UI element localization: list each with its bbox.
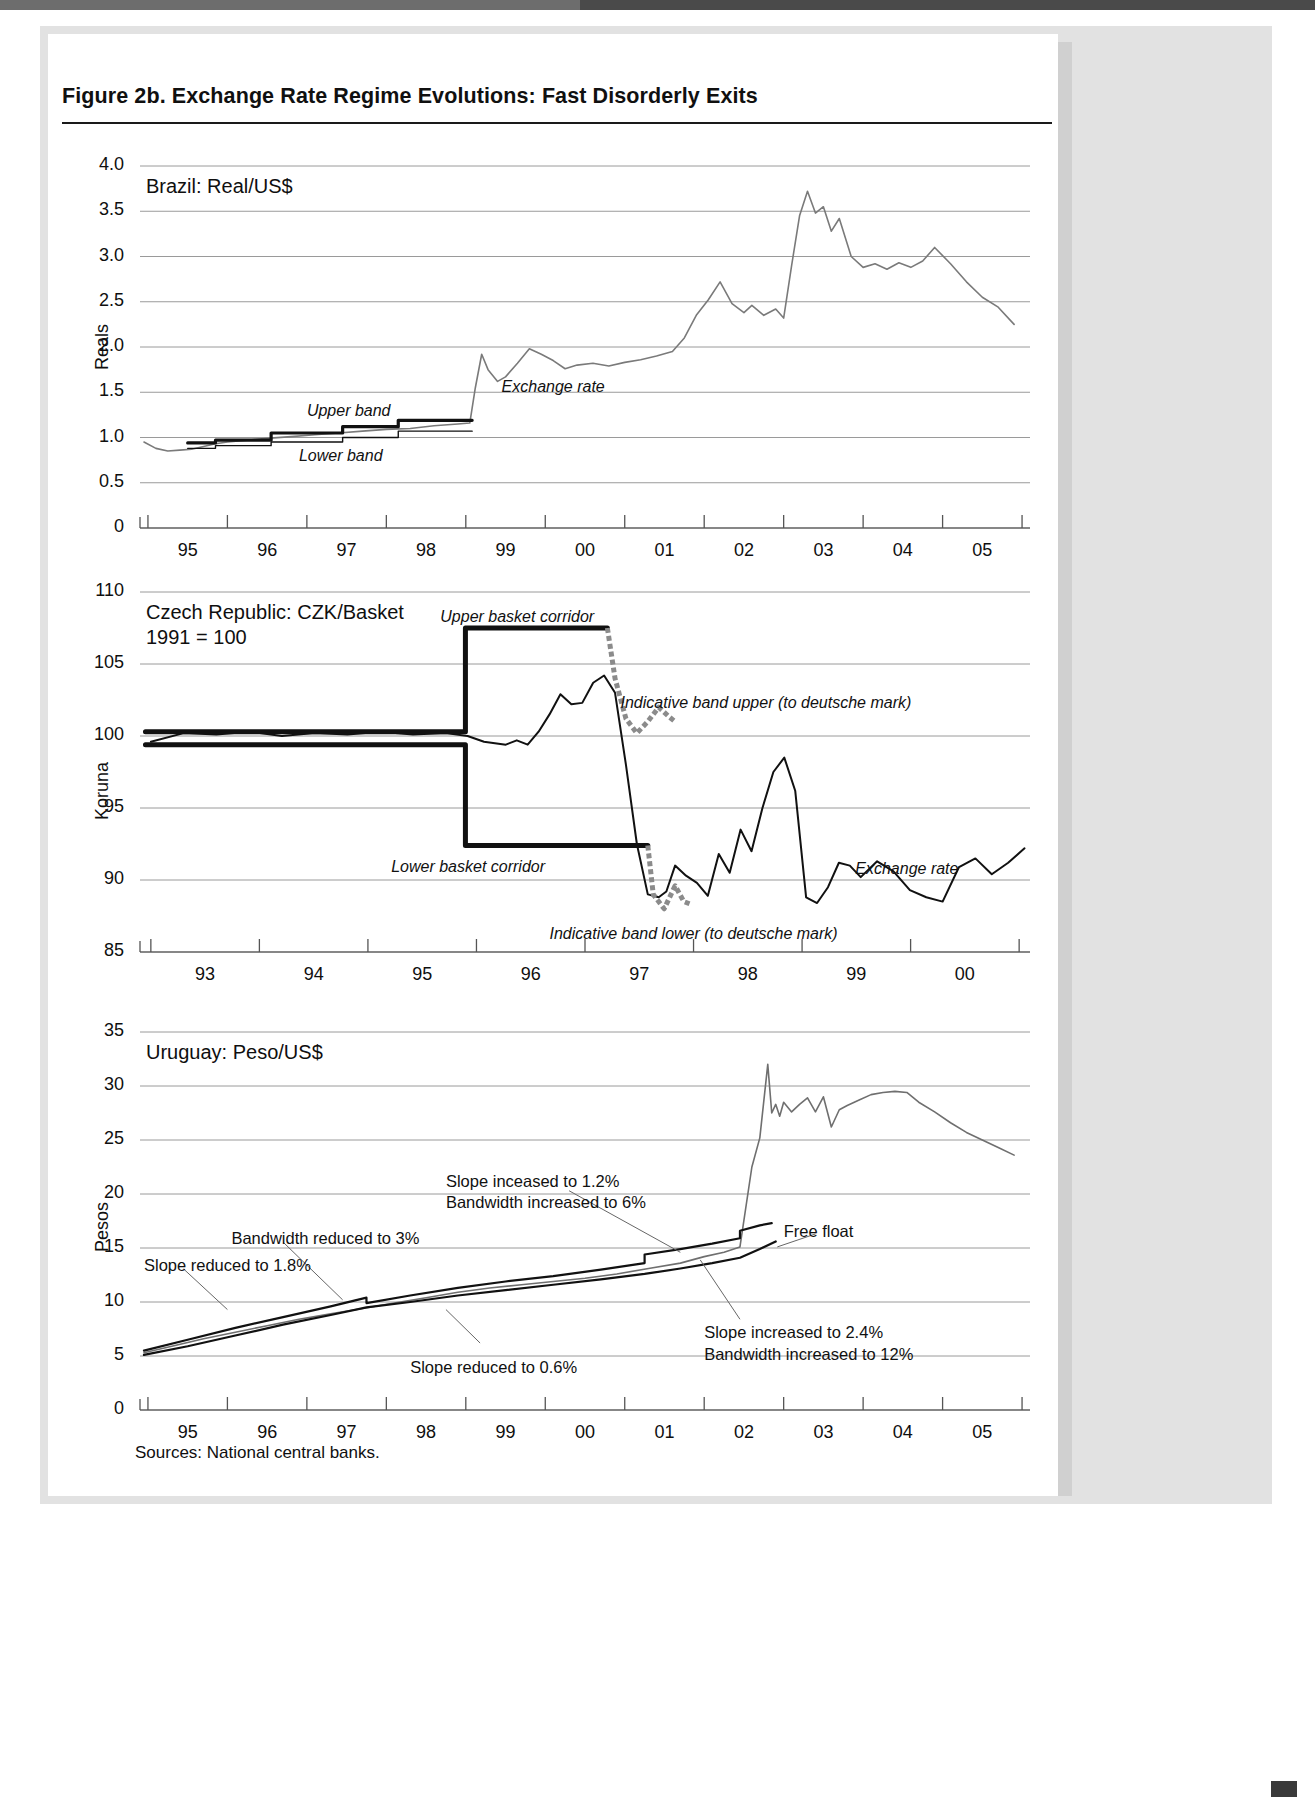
x-tick-label: 04 <box>873 1422 933 1443</box>
x-tick-label: 93 <box>175 964 235 985</box>
x-tick-label: 05 <box>952 1422 1012 1443</box>
x-tick-label: 97 <box>609 964 669 985</box>
chart-annotation: Exchange rate <box>502 378 605 396</box>
x-tick-label: 95 <box>158 540 218 561</box>
y-tick-label: 30 <box>44 1074 124 1095</box>
chart-annotation: Slope reduced to 1.8% <box>144 1255 311 1276</box>
x-tick-label: 01 <box>634 1422 694 1443</box>
chart-annotation: Indicative band upper (to deutsche mark) <box>620 694 911 712</box>
chart-annotation: Slope increased to 2.4% Bandwidth increa… <box>704 1322 913 1365</box>
y-tick-label: 85 <box>44 940 124 961</box>
x-tick-label: 98 <box>396 1422 456 1443</box>
x-tick-label: 04 <box>873 540 933 561</box>
y-tick-label: 0 <box>44 516 124 537</box>
x-tick-label: 01 <box>634 540 694 561</box>
x-tick-label: 05 <box>952 540 1012 561</box>
y-tick-label: 4.0 <box>44 154 124 175</box>
y-tick-label: 95 <box>44 796 124 817</box>
panel-title: Uruguay: Peso/US$ <box>146 1040 323 1065</box>
x-tick-label: 03 <box>793 1422 853 1443</box>
x-tick-label: 96 <box>237 1422 297 1443</box>
x-tick-label: 99 <box>826 964 886 985</box>
y-tick-label: 15 <box>44 1236 124 1257</box>
y-tick-label: 1.0 <box>44 426 124 447</box>
x-tick-label: 02 <box>714 1422 774 1443</box>
x-tick-label: 99 <box>476 540 536 561</box>
chart-annotation: Slope inceased to 1.2% Bandwidth increas… <box>446 1171 646 1214</box>
x-tick-label: 95 <box>158 1422 218 1443</box>
y-tick-label: 1.5 <box>44 380 124 401</box>
sources-note: Sources: National central banks. <box>135 1443 380 1463</box>
x-tick-label: 00 <box>555 1422 615 1443</box>
x-tick-label: 02 <box>714 540 774 561</box>
x-tick-label: 96 <box>237 540 297 561</box>
y-tick-label: 3.0 <box>44 245 124 266</box>
y-tick-label: 90 <box>44 868 124 889</box>
x-tick-label: 97 <box>317 1422 377 1443</box>
figure-title: Figure 2b. Exchange Rate Regime Evolutio… <box>62 84 1002 109</box>
y-tick-label: 110 <box>44 580 124 601</box>
y-tick-label: 2.0 <box>44 335 124 356</box>
title-divider <box>62 122 1052 124</box>
x-tick-label: 99 <box>476 1422 536 1443</box>
panel-title: Czech Republic: CZK/Basket 1991 = 100 <box>146 600 404 650</box>
y-tick-label: 20 <box>44 1182 124 1203</box>
y-tick-label: 10 <box>44 1290 124 1311</box>
y-tick-label: 2.5 <box>44 290 124 311</box>
y-tick-label: 3.5 <box>44 199 124 220</box>
chart-annotation: Bandwidth reduced to 3% <box>231 1228 419 1249</box>
x-tick-label: 97 <box>317 540 377 561</box>
x-tick-label: 98 <box>718 964 778 985</box>
y-tick-label: 5 <box>44 1344 124 1365</box>
chart-annotation: Upper band <box>307 402 391 420</box>
chart-annotation: Lower band <box>299 447 383 465</box>
y-tick-label: 0.5 <box>44 471 124 492</box>
page-bottom <box>0 1504 1315 1819</box>
x-tick-label: 98 <box>396 540 456 561</box>
chart-annotation: Exchange rate <box>855 860 958 878</box>
corner-mark <box>1271 1781 1297 1797</box>
card-shadow <box>1058 42 1072 1496</box>
x-tick-label: 03 <box>793 540 853 561</box>
chart-annotation: Upper basket corridor <box>440 608 594 626</box>
x-tick-label: 95 <box>392 964 452 985</box>
y-tick-label: 0 <box>44 1398 124 1419</box>
x-tick-label: 94 <box>284 964 344 985</box>
x-tick-label: 96 <box>501 964 561 985</box>
y-tick-label: 35 <box>44 1020 124 1041</box>
top-rule-right <box>580 0 1315 10</box>
x-tick-label: 00 <box>935 964 995 985</box>
y-tick-label: 105 <box>44 652 124 673</box>
panel-title: Brazil: Real/US$ <box>146 174 293 199</box>
y-tick-label: 100 <box>44 724 124 745</box>
chart-annotation: Indicative band lower (to deutsche mark) <box>550 925 838 943</box>
chart-annotation: Lower basket corridor <box>391 858 545 876</box>
y-tick-label: 25 <box>44 1128 124 1149</box>
x-tick-label: 00 <box>555 540 615 561</box>
chart-annotation: Free float <box>784 1221 854 1242</box>
chart-annotation: Slope reduced to 0.6% <box>410 1357 577 1378</box>
